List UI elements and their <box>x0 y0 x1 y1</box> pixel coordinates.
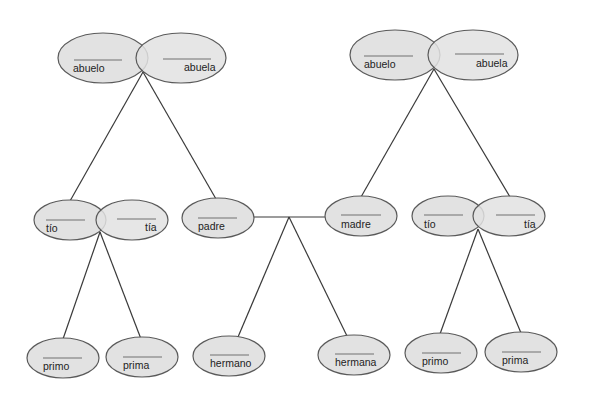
edge-grandparents-to-tia <box>434 69 510 197</box>
node-paternal-primo: primo <box>27 338 99 378</box>
node-label: abuelo <box>364 58 396 70</box>
node-label: abuelo <box>73 62 105 74</box>
node-paternal-prima: prima <box>106 337 178 377</box>
edge-grandparents-to-padre <box>143 72 216 199</box>
node-maternal-abuelo: abuelo <box>350 30 440 80</box>
edge-tios-to-primo <box>63 232 100 339</box>
node-paternal-abuelo: abuelo <box>58 33 148 83</box>
node-label: abuela <box>476 57 508 69</box>
node-paternal-tia: tía <box>96 200 168 240</box>
node-label: primo <box>43 360 69 372</box>
node-hermana: hermana <box>318 335 390 375</box>
node-maternal-abuela: abuela <box>428 30 518 80</box>
edge-tios-to-prima <box>100 232 141 339</box>
edge-tios-to-primo-right <box>440 229 478 334</box>
node-label: prima <box>123 359 149 371</box>
node-label: abuela <box>184 61 216 73</box>
family-tree-diagram: abuelo abuela abuelo abuela tío tía padr… <box>0 0 590 403</box>
edge-grandparents-to-tio <box>70 72 143 201</box>
node-label: tío <box>46 222 58 234</box>
edge-parents-to-hermana <box>289 217 347 336</box>
node-label: primo <box>422 355 448 367</box>
node-paternal-abuela: abuela <box>136 33 226 83</box>
node-label: tía <box>524 218 536 230</box>
node-label: tía <box>145 221 157 233</box>
node-label: tío <box>424 218 436 230</box>
edge-parents-to-hermano <box>238 217 289 337</box>
node-label: padre <box>198 220 225 232</box>
node-maternal-primo: primo <box>405 333 477 373</box>
node-label: prima <box>502 354 528 366</box>
edge-grandparents-to-madre <box>361 69 434 197</box>
edge-tios-to-prima-right <box>478 229 521 333</box>
node-padre: padre <box>182 198 254 238</box>
node-maternal-tia: tía <box>473 196 545 236</box>
node-maternal-prima: prima <box>485 332 557 372</box>
node-label: hermano <box>210 357 252 369</box>
node-label: hermana <box>335 356 377 368</box>
node-hermano: hermano <box>193 336 265 376</box>
node-label: madre <box>341 218 371 230</box>
node-paternal-tio: tío <box>34 200 106 240</box>
node-madre: madre <box>325 196 397 236</box>
